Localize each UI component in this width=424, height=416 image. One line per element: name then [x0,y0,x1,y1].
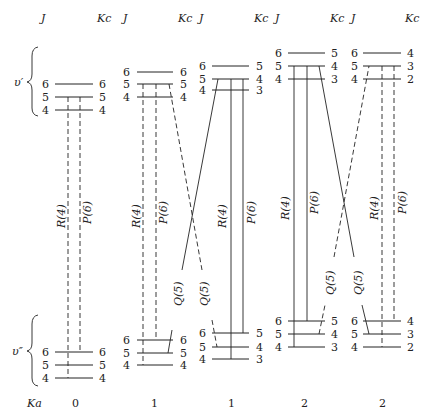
kc-label: 5 [99,91,106,104]
header-j-3: J [273,12,280,25]
kc-label: 4 [99,104,106,117]
label-p6: P(6) [81,201,94,225]
label-p6: P(6) [157,201,170,225]
header-kc-0: Kc [96,12,111,25]
kc-label: 3 [256,84,263,97]
transition-q5-solid-lower [168,330,172,353]
header-j-0: J [39,12,46,25]
j-label: 4 [123,91,130,104]
kc-label: 3 [331,341,338,354]
j-label: 4 [275,73,282,86]
j-label: 6 [351,315,358,328]
ka-value-0: 0 [72,397,79,410]
j-label: 6 [275,47,282,60]
j-label: 5 [351,328,358,341]
label-q5-solid: Q(5) [352,270,365,295]
header-kc-1: Kc [177,12,192,25]
ka-axis-label: Ka [26,397,42,410]
lower-state-label: υ″ [12,345,24,358]
kc-label: 6 [99,78,106,91]
j-label: 6 [199,327,206,340]
kc-label: 5 [256,60,263,73]
j-label: 4 [123,359,130,372]
panel-ka2-b: 6 5 4 4 3 2 6 5 4 4 3 2 R(4) P(6) [351,47,414,354]
ka-value-4: 2 [379,397,386,410]
lower-state-brace: υ″ [12,315,38,386]
panel-ka0: 6 5 4 6 5 4 6 5 4 6 5 4 R(4) P(6) [42,78,106,385]
j-label: 5 [42,359,49,372]
j-label: 5 [275,328,282,341]
transition-q5-solid-lower [362,305,369,334]
label-q5-dashed: Q(5) [198,281,211,306]
ka-value-1: 1 [151,397,158,410]
label-r4: R(4) [216,204,229,229]
kc-label: 4 [180,359,187,372]
j-label: 6 [42,346,49,359]
label-p6: P(6) [245,201,258,225]
label-q5-dashed: Q(5) [324,270,337,295]
kc-label: 5 [256,327,263,340]
header-j-2: J [197,12,204,25]
kc-label: 4 [331,60,338,73]
kc-label: 2 [407,73,414,86]
header-row: J Kc J Kc J Kc J Kc J Kc [39,12,419,25]
label-r4: R(4) [368,196,381,221]
kc-label: 3 [256,353,263,366]
kc-label: 5 [99,359,106,372]
energy-level-diagram: J Kc J Kc J Kc J Kc J Kc υ′ υ″ 6 5 4 6 5… [0,0,424,416]
kc-label: 4 [180,91,187,104]
ka-value-3: 2 [301,397,308,410]
j-label: 4 [199,84,206,97]
cross-q5-ka2: Q(5) Q(5) [319,66,369,334]
j-label: 6 [42,78,49,91]
label-r4: R(4) [130,204,143,229]
footer-ka-row: Ka 0 1 1 2 2 [26,397,386,410]
kc-label: 6 [180,334,187,347]
kc-label: 3 [407,60,414,73]
transition-q5-dashed-upper [334,66,369,257]
ka-value-2: 1 [228,397,235,410]
j-label: 4 [42,104,49,117]
j-label: 4 [199,353,206,366]
kc-label: 2 [407,341,414,354]
label-p6: P(6) [396,191,409,215]
panel-ka1-a: 6 5 4 6 5 4 6 5 4 6 5 4 R(4) P(6) [123,66,187,372]
kc-label: 5 [331,47,338,60]
j-label: 5 [123,78,130,91]
transition-q5-solid-upper [319,66,354,257]
j-label: 4 [42,372,49,385]
label-r4: R(4) [279,196,292,221]
kc-label: 3 [407,328,414,341]
j-label: 6 [123,334,130,347]
j-label: 5 [42,91,49,104]
label-q5-solid: Q(5) [172,281,185,306]
transition-q5-dashed-upper [169,84,202,270]
j-label: 6 [199,60,206,73]
header-kc-4: Kc [404,12,419,25]
kc-label: 4 [407,315,414,328]
kc-label: 4 [331,328,338,341]
kc-label: 4 [407,47,414,60]
header-j-4: J [349,12,356,25]
j-label: 4 [351,341,358,354]
j-label: 6 [351,47,358,60]
kc-label: 3 [331,73,338,86]
j-label: 4 [275,341,282,354]
header-kc-3: Kc [329,12,344,25]
transition-q5-solid-upper [182,79,218,270]
j-label: 6 [275,315,282,328]
kc-label: 5 [180,78,187,91]
label-r4: R(4) [55,204,68,229]
panel-ka1-b: 6 5 4 5 4 3 6 5 4 5 4 3 R(4) P(6) [199,60,263,366]
kc-label: 6 [99,346,106,359]
header-kc-2: Kc [253,12,268,25]
upper-state-brace: υ′ [14,47,38,116]
kc-label: 4 [99,372,106,385]
j-label: 4 [351,73,358,86]
panel-ka2-a: 6 5 4 5 4 3 6 5 4 5 4 3 R(4) P(6) [275,47,338,354]
j-label: 5 [351,60,358,73]
kc-label: 5 [331,315,338,328]
transition-q5-dashed-lower [319,305,325,334]
header-j-1: J [121,12,128,25]
cross-q5-ka1: Q(5) Q(5) [168,79,218,353]
